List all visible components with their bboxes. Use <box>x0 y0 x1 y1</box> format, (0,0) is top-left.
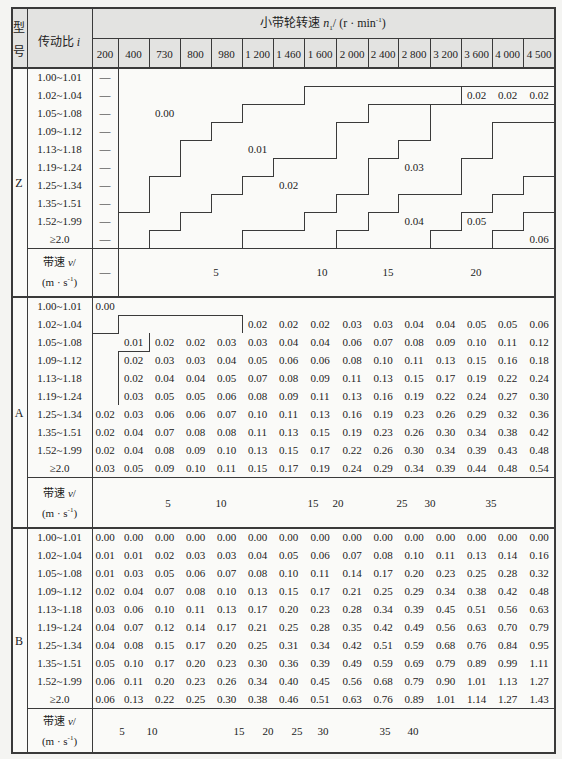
value-cell: 0.17 <box>310 445 329 456</box>
value-cell: 0.02 <box>529 90 548 101</box>
value-cell: — <box>100 234 111 245</box>
region-value-label: 0.04 <box>404 216 423 227</box>
value-cell: 0.08 <box>342 355 361 366</box>
value-cell: 0.20 <box>404 568 423 579</box>
value-cell: 1.14 <box>467 694 486 705</box>
value-cell: 0.51 <box>467 604 486 615</box>
value-cell: 0.08 <box>248 568 267 579</box>
value-cell: 1.27 <box>529 676 548 687</box>
value-cell: 0.03 <box>217 337 236 348</box>
ratio-range-cell: 1.25~1.34 <box>37 409 81 420</box>
value-cell: 0.03 <box>124 391 143 402</box>
value-cell: 0.07 <box>217 568 236 579</box>
rpm-column-header: 1 200 <box>245 49 270 60</box>
value-cell: 0.02 <box>155 550 174 561</box>
value-cell: 0.02 <box>467 90 486 101</box>
value-cell: 0.25 <box>279 622 298 633</box>
value-cell: 0.03 <box>124 568 143 579</box>
belt-speed-marker: 5 <box>165 498 171 509</box>
value-cell: 0.15 <box>248 463 267 474</box>
belt-speed-unit: (m · s-1) <box>42 277 77 288</box>
rpm-unit-close: ) <box>382 16 386 30</box>
value-cell: 0.08 <box>279 373 298 384</box>
value-cell: 0.84 <box>498 640 517 651</box>
rpm-column-header: 3 200 <box>433 49 458 60</box>
rpm-column-header: 2 400 <box>371 49 396 60</box>
ratio-range-cell: 1.52~1.99 <box>37 216 81 227</box>
value-cell: 0.09 <box>310 373 329 384</box>
rpm-column-header: 4 000 <box>495 49 520 60</box>
value-cell: 0.15 <box>467 355 486 366</box>
value-cell: 0.36 <box>279 658 298 669</box>
value-cell: 0.03 <box>95 604 114 615</box>
ratio-range-cell: 1.02~1.04 <box>37 319 81 330</box>
value-cell: 0.23 <box>373 427 392 438</box>
value-cell: 0.03 <box>95 463 114 474</box>
value-cell: 0.00 <box>404 532 423 543</box>
type-header-top: 型 <box>13 22 25 34</box>
ratio-range-cell: 1.09~1.12 <box>37 355 81 366</box>
value-cell: 0.10 <box>373 355 392 366</box>
value-cell: 0.32 <box>529 568 548 579</box>
value-cell: 0.04 <box>155 373 174 384</box>
value-cell: 0.09 <box>436 337 455 348</box>
value-cell: 0.06 <box>279 355 298 366</box>
ratio-range-cell: 1.00~1.01 <box>37 532 81 543</box>
value-cell: 0.38 <box>467 586 486 597</box>
value-cell: 0.51 <box>373 640 392 651</box>
ratio-range-cell: 1.35~1.51 <box>37 198 81 209</box>
value-cell: 0.08 <box>248 391 267 402</box>
value-cell: 0.00 <box>342 532 361 543</box>
rpm-group-title: 小带轮转速 <box>260 16 320 30</box>
value-cell: 1.43 <box>529 694 548 705</box>
value-cell: 0.89 <box>467 658 486 669</box>
value-cell: 0.17 <box>279 463 298 474</box>
value-cell: 0.13 <box>373 373 392 384</box>
value-cell: 0.99 <box>498 658 517 669</box>
value-cell: 0.63 <box>342 694 361 705</box>
rpm-group-header: 小带轮转速 n1/ (r · min-1) <box>260 17 385 29</box>
belt-speed-unit: (m · s-1) <box>42 508 77 519</box>
value-cell: 0.63 <box>467 622 486 633</box>
belt-speed-label: 带速 v/ <box>43 716 76 727</box>
value-cell: 0.19 <box>342 427 361 438</box>
value-cell: 0.05 <box>279 550 298 561</box>
belt-speed-text: 带速 <box>43 487 65 499</box>
value-cell: 0.10 <box>217 445 236 456</box>
ratio-range-cell: 1.13~1.18 <box>37 373 81 384</box>
value-cell: 0.51 <box>310 694 329 705</box>
value-cell: 0.17 <box>248 604 267 615</box>
rpm-column-header: 980 <box>218 49 235 60</box>
value-cell: 0.90 <box>436 676 455 687</box>
ratio-range-cell: 1.05~1.08 <box>37 108 81 119</box>
value-cell: 0.22 <box>155 694 174 705</box>
value-cell: 0.02 <box>95 586 114 597</box>
value-cell: 0.13 <box>248 445 267 456</box>
value-cell: 0.07 <box>248 373 267 384</box>
value-cell: 0.11 <box>311 391 330 402</box>
value-cell: 0.08 <box>404 337 423 348</box>
value-cell: 0.13 <box>124 694 143 705</box>
belt-speed-unit-text: (m · s <box>42 735 68 747</box>
value-cell: 0.28 <box>498 568 517 579</box>
value-cell: — <box>100 144 111 155</box>
belt-speed-unit-close: ) <box>73 735 77 747</box>
ratio-range-cell: 1.19~1.24 <box>37 162 81 173</box>
value-cell: 0.00 <box>529 532 548 543</box>
value-cell: 0.22 <box>342 445 361 456</box>
value-cell: 0.00 <box>155 532 174 543</box>
value-cell: 0.39 <box>310 658 329 669</box>
value-cell: 0.11 <box>405 355 424 366</box>
value-cell: 0.04 <box>124 427 143 438</box>
value-cell: 0.20 <box>279 604 298 615</box>
ratio-range-cell: 1.02~1.04 <box>37 90 81 101</box>
belt-speed-unit: (m · s-1) <box>42 736 77 747</box>
rpm-column-header: 3 600 <box>464 49 489 60</box>
value-cell: 0.23 <box>404 409 423 420</box>
value-cell: 0.07 <box>217 409 236 420</box>
ratio-range-cell: 1.35~1.51 <box>37 658 81 669</box>
region-value-label: 0.03 <box>404 162 423 173</box>
value-cell: 0.17 <box>436 373 455 384</box>
value-cell: 0.34 <box>467 427 486 438</box>
belt-speed-marker: 20 <box>263 726 274 737</box>
